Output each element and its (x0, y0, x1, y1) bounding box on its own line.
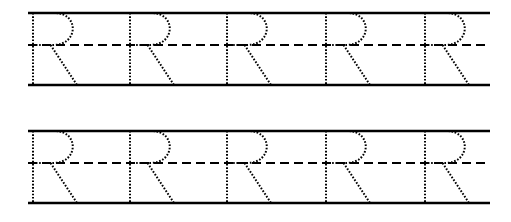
practice-row-2 (0, 0, 511, 222)
letter-bowl (425, 131, 465, 163)
letter-leg (245, 163, 271, 203)
trace-letter-r[interactable] (326, 131, 370, 203)
letter-bowl (326, 131, 366, 163)
trace-letter-r[interactable] (33, 131, 77, 203)
letter-leg (443, 163, 469, 203)
letter-leg (51, 163, 77, 203)
letter-bowl (130, 131, 170, 163)
letter-leg (148, 163, 174, 203)
worksheet-sheet (0, 0, 511, 222)
letter-bowl (227, 131, 267, 163)
letter-leg (344, 163, 370, 203)
trace-letter-r[interactable] (130, 131, 174, 203)
trace-letter-r[interactable] (227, 131, 271, 203)
trace-letter-r[interactable] (425, 131, 469, 203)
letter-bowl (33, 131, 73, 163)
